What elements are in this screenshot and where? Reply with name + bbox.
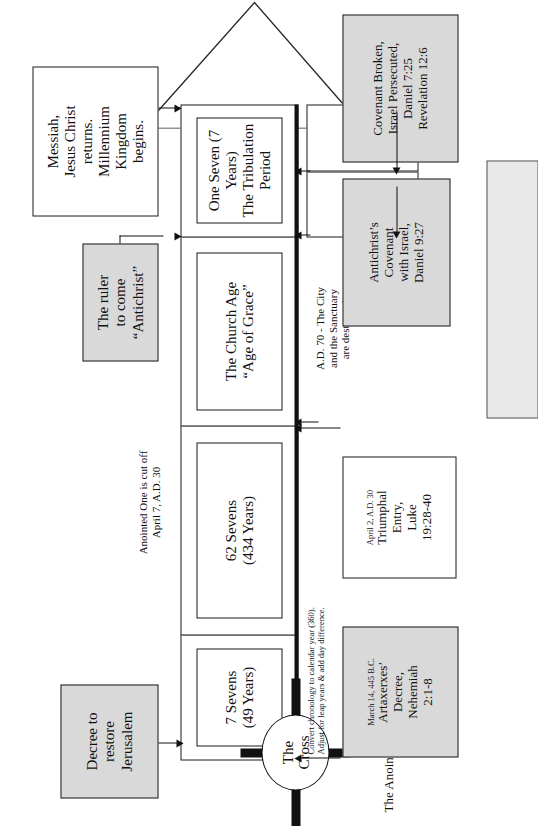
segment-tribulation-line1: One Seven (7 Years) [205, 118, 240, 222]
segment-7-sevens-line1: 7 Sevens [222, 670, 239, 724]
box-triumphal-entry: April 2, A.D. 30 Triumphal Entry, Luke 1… [342, 456, 456, 578]
segment-label-62-sevens: 62 Sevens (434 Years) [196, 442, 282, 618]
segment-62-sevens-line1: 62 Sevens [222, 499, 239, 560]
ad70-tick [300, 421, 318, 422]
segment-church-age-line1: The Church Age [222, 281, 239, 380]
trib-start-tick [300, 234, 310, 235]
note-convert-chronology: Convert chronology to calendar year (360… [306, 516, 336, 754]
triumphal-line-1: Triumphal [374, 490, 389, 544]
decree-line-3: Jerusalem [118, 711, 135, 771]
messiah-returns-connector-arrowhead [174, 104, 181, 112]
box-artaxerxes-decree: March 14, 445 B.C. Artaxerxes’ Decree, N… [342, 626, 458, 757]
trib-mid-tick [300, 170, 310, 171]
triumphal-line-3: Luke [404, 504, 419, 531]
convert-chronology-line1: Convert chronology to calendar year (360… [306, 607, 316, 754]
broken-line-4: Revelation 12:6 [415, 47, 430, 130]
segment-62-sevens-line2: (434 Years) [239, 495, 256, 564]
return-line-5: Kingdom [112, 113, 129, 170]
broken-line-1: Covenant Broken, [370, 41, 385, 136]
artaxerxes-line-3: Nehemiah [405, 665, 420, 718]
segment-7-sevens-line2: (49 Years) [239, 666, 256, 728]
segment-tribulation-line2: The Tribulation Period [239, 118, 274, 222]
segment-label-church-age: The Church Age “Age of Grace” [196, 252, 282, 410]
covenant-line-4: Daniel 9:27 [411, 222, 426, 283]
covenant-line-1: Antichrist’s [366, 222, 381, 283]
convert-span-left-tick [300, 757, 340, 758]
artaxerxes-line-4: 2:1-8 [420, 678, 435, 705]
cross-label-line1: The [279, 740, 296, 763]
box-cut-off-edge [486, 160, 538, 418]
antichrist-connector-arrowhead [174, 232, 181, 240]
ad70-arrow [294, 418, 301, 426]
antichrist-line-2: to come [111, 278, 128, 326]
convert-chronology-line2: Adjust for leap years & add day differen… [316, 607, 326, 754]
broken-connector [396, 112, 397, 168]
decree-line-1: Decree to [83, 712, 100, 770]
decree-connector-arrowhead [176, 739, 183, 747]
return-line-4: Millennium [95, 106, 112, 177]
artaxerxes-line-2: Decree, [390, 671, 405, 711]
anointed-cut-off-line1: Anointed One is cut off [136, 450, 149, 554]
covenant-connector [396, 186, 397, 232]
anointed-cut-off-line2: April 7, A.D. 30 [149, 466, 162, 538]
antichrist-connector-vertical [119, 235, 163, 236]
trib-mid-arrow [294, 167, 301, 175]
trib-start-arrow [294, 231, 301, 239]
return-line-1: Messiah, [44, 114, 61, 168]
convert-span-right-tick [300, 427, 340, 428]
decree-line-2: restore [100, 721, 117, 762]
box-covenant-broken: Covenant Broken, Israel Persecuted, Dani… [342, 14, 458, 162]
box-decree-restore-jerusalem: Decree to restore Jerusalem [60, 684, 158, 798]
triumphal-line-4: 19:28-40 [419, 494, 434, 541]
broken-line-2: Israel Persecuted, [385, 42, 400, 134]
broken-connector-arrow [392, 167, 400, 174]
return-line-6: begins. [129, 120, 146, 163]
triumphal-line-2: Entry, [389, 501, 404, 532]
ad70-line2: and the Sanctuary [326, 289, 339, 368]
box-ruler-antichrist: The ruler to come “Antichrist” [82, 243, 158, 361]
return-line-2: Jesus Christ [61, 105, 78, 177]
box-messiah-returns: Messiah, Jesus Christ returns. Millenniu… [32, 66, 158, 216]
antichrist-line-3: “Antichrist” [129, 265, 146, 338]
artaxerxes-line-1: Artaxerxes’ [375, 661, 390, 722]
segment-label-tribulation: One Seven (7 Years) The Tribulation Peri… [196, 117, 282, 223]
antichrist-line-1: The ruler [94, 274, 111, 329]
ad70-line1: A.D. 70 - The City [313, 287, 326, 370]
broken-line-3: Daniel 7:25 [400, 58, 415, 119]
convert-span-left-arrow [294, 754, 301, 762]
segment-church-age-line2: “Age of Grace” [239, 284, 256, 378]
anointed-cut-off-caption: Anointed One is cut off April 7, A.D. 30 [128, 424, 170, 580]
return-line-3: returns. [78, 118, 95, 163]
covenant-connector-arrow [392, 231, 400, 238]
